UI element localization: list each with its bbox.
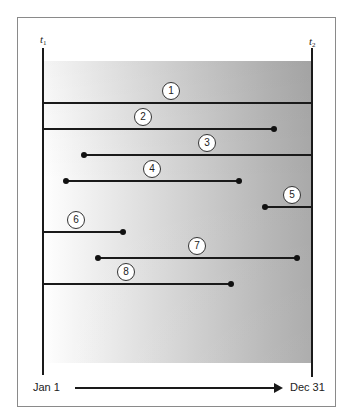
interval-line-5 [265, 206, 312, 208]
interval-start-dot-icon [262, 204, 268, 210]
interval-line-8 [43, 283, 231, 285]
interval-end-dot-icon [271, 126, 277, 132]
interval-number-badge: 1 [162, 82, 180, 100]
interval-line-1 [43, 102, 312, 104]
interval-end-dot-icon [236, 178, 242, 184]
interval-start-dot-icon [95, 255, 101, 261]
interval-line-6 [43, 231, 123, 233]
interval-number-badge: 8 [117, 263, 135, 281]
interval-number-badge: 4 [143, 160, 161, 178]
interval-line-2 [43, 128, 274, 130]
interval-line-7 [98, 257, 297, 259]
interval-number-badge: 2 [134, 108, 152, 126]
t1-boundary-line [42, 48, 44, 375]
interval-end-dot-icon [228, 281, 234, 287]
interval-start-dot-icon [63, 178, 69, 184]
interval-number-badge: 6 [67, 211, 85, 229]
interval-start-dot-icon [81, 152, 87, 158]
arrow-right-icon [274, 383, 283, 393]
interval-number-badge: 5 [283, 186, 301, 204]
interval-number-badge: 3 [198, 134, 216, 152]
time-arrow-line [75, 387, 275, 389]
axis-end-label: Dec 31 [290, 382, 325, 393]
interval-number-badge: 7 [188, 237, 206, 255]
interval-end-dot-icon [294, 255, 300, 261]
interval-end-dot-icon [120, 229, 126, 235]
interval-line-3 [84, 154, 312, 156]
t2-boundary-line [311, 48, 313, 377]
interval-line-4 [66, 180, 239, 182]
observation-period-band [43, 61, 312, 363]
axis-start-label: Jan 1 [33, 382, 60, 393]
t1-label: t1 [40, 34, 47, 47]
